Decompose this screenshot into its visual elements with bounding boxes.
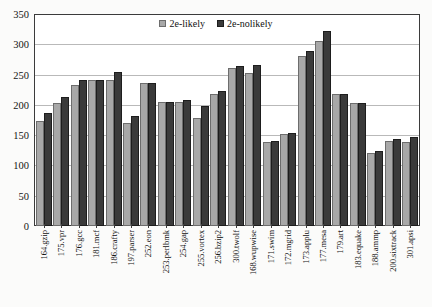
- x-axis-tick: [410, 224, 411, 228]
- x-axis-tick-label: 301.apsi: [405, 230, 415, 259]
- bar: [218, 91, 226, 226]
- bar: [183, 100, 191, 226]
- x-axis-label-cell: 188.ammp: [367, 228, 384, 306]
- x-axis-tick: [201, 224, 202, 228]
- bar-group: [157, 14, 174, 226]
- bar-group: [227, 14, 244, 226]
- x-axis-tick-label: 197.parser: [126, 230, 136, 266]
- bar: [393, 139, 401, 226]
- x-axis-tick-label: 168.wupwise: [248, 230, 258, 275]
- bar: [236, 66, 244, 226]
- x-axis-tick-label: 254.gap: [178, 230, 188, 257]
- x-axis-label-cell: 175.vpr: [52, 228, 69, 306]
- bar: [315, 41, 323, 226]
- x-axis-tick-label: 175.vpr: [56, 230, 66, 256]
- bar: [253, 65, 261, 226]
- bar-group: [87, 14, 104, 226]
- bar: [332, 94, 340, 226]
- bar: [210, 94, 218, 226]
- x-axis-tick-label: 179.art: [335, 230, 345, 254]
- bar-group: [332, 14, 349, 226]
- x-axis-tick-label: 252.eon: [143, 230, 153, 257]
- bar: [350, 103, 358, 226]
- bar: [340, 94, 348, 226]
- x-axis-labels: 164.gzip175.vpr176.gcc181.mcf186.crafty1…: [35, 228, 419, 306]
- bar: [53, 103, 61, 226]
- bar-chart: 050100150200250300350 164.gzip175.vpr176…: [0, 0, 432, 307]
- bar: [148, 83, 156, 226]
- bar: [323, 31, 331, 226]
- bar: [88, 80, 96, 226]
- x-axis-label-cell: 256.bzip2: [210, 228, 227, 306]
- x-axis-tick-label: 256.bzip2: [213, 230, 223, 264]
- x-axis-label-cell: 301.apsi: [402, 228, 419, 306]
- x-axis-tick: [148, 224, 149, 228]
- bar: [96, 80, 104, 226]
- x-axis-label-cell: 253.perlbmk: [157, 228, 174, 306]
- bar-group: [175, 14, 192, 226]
- bar: [271, 141, 279, 226]
- x-axis-label-cell: 252.eon: [140, 228, 157, 306]
- x-axis-tick: [183, 224, 184, 228]
- x-axis-tick-label: 253.perlbmk: [161, 230, 171, 273]
- bar: [201, 106, 209, 226]
- y-axis-tick-label: 200: [13, 99, 29, 110]
- bar: [245, 73, 253, 226]
- x-axis-label-cell: 179.art: [332, 228, 349, 306]
- bar-group: [262, 14, 279, 226]
- bar-group: [105, 14, 122, 226]
- bar: [61, 97, 69, 226]
- bar: [263, 142, 271, 226]
- bar-group: [210, 14, 227, 226]
- x-axis-tick: [306, 224, 307, 228]
- x-axis-tick: [96, 224, 97, 228]
- x-axis-tick: [323, 224, 324, 228]
- y-axis: 050100150200250300350: [0, 14, 32, 226]
- bar: [410, 137, 418, 226]
- x-axis-tick-label: 177.mesa: [318, 230, 328, 262]
- bar-group: [297, 14, 314, 226]
- bar-group: [402, 14, 419, 226]
- x-axis-tick: [114, 224, 115, 228]
- x-axis-tick-label: 171.swim: [266, 230, 276, 263]
- bar: [79, 80, 87, 226]
- bar-group: [70, 14, 87, 226]
- bar-group: [244, 14, 261, 226]
- x-axis-label-cell: 200.sixtrack: [384, 228, 401, 306]
- x-axis-label-cell: 255.vortex: [192, 228, 209, 306]
- bar-group: [192, 14, 209, 226]
- bar-group: [349, 14, 366, 226]
- bar-group: [35, 14, 52, 226]
- x-axis-label-cell: 176.gcc: [70, 228, 87, 306]
- bar: [158, 102, 166, 226]
- bar: [44, 113, 52, 226]
- x-axis-tick: [253, 224, 254, 228]
- x-axis-tick-label: 173.applu: [301, 230, 311, 264]
- bar: [140, 83, 148, 226]
- bar: [306, 51, 314, 226]
- x-axis-tick: [44, 224, 45, 228]
- y-axis-tick-label: 50: [19, 190, 30, 201]
- x-axis-tick-label: 186.crafty: [109, 230, 119, 265]
- bar: [367, 153, 375, 226]
- x-axis-tick: [340, 224, 341, 228]
- bar: [71, 85, 79, 226]
- x-axis-tick-label: 172.mgrid: [283, 230, 293, 265]
- x-axis-tick: [166, 224, 167, 228]
- bar-group: [279, 14, 296, 226]
- bar: [288, 133, 296, 226]
- bar-group: [314, 14, 331, 226]
- bar: [36, 121, 44, 226]
- x-axis-label-cell: 300.twolf: [227, 228, 244, 306]
- bar: [298, 56, 306, 226]
- bar: [358, 103, 366, 226]
- bar-group: [140, 14, 157, 226]
- x-axis-tick: [236, 224, 237, 228]
- y-axis-tick-label: 250: [13, 69, 29, 80]
- x-axis-label-cell: 254.gap: [175, 228, 192, 306]
- y-axis-tick-label: 150: [13, 130, 29, 141]
- y-axis-tick-label: 100: [13, 160, 29, 171]
- x-axis-tick: [79, 224, 80, 228]
- bar-group: [384, 14, 401, 226]
- bar: [114, 72, 122, 226]
